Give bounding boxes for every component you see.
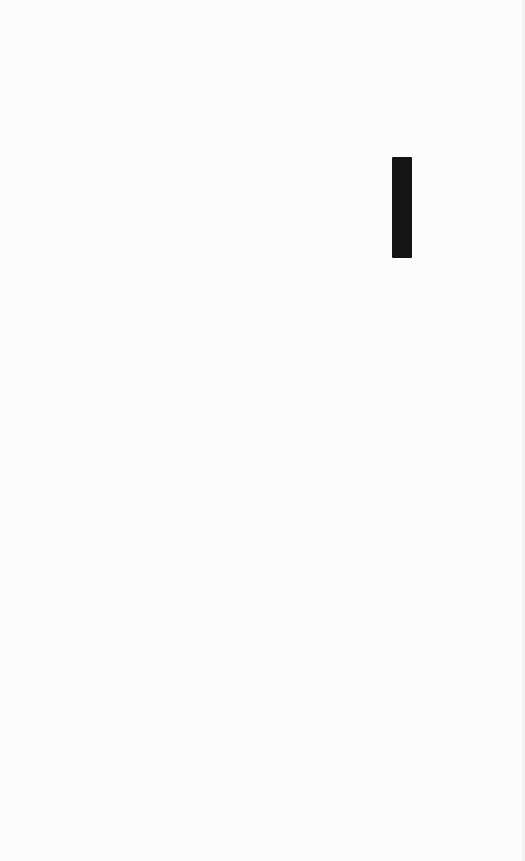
text-cursor-block xyxy=(392,157,412,258)
blank-page xyxy=(0,0,525,861)
